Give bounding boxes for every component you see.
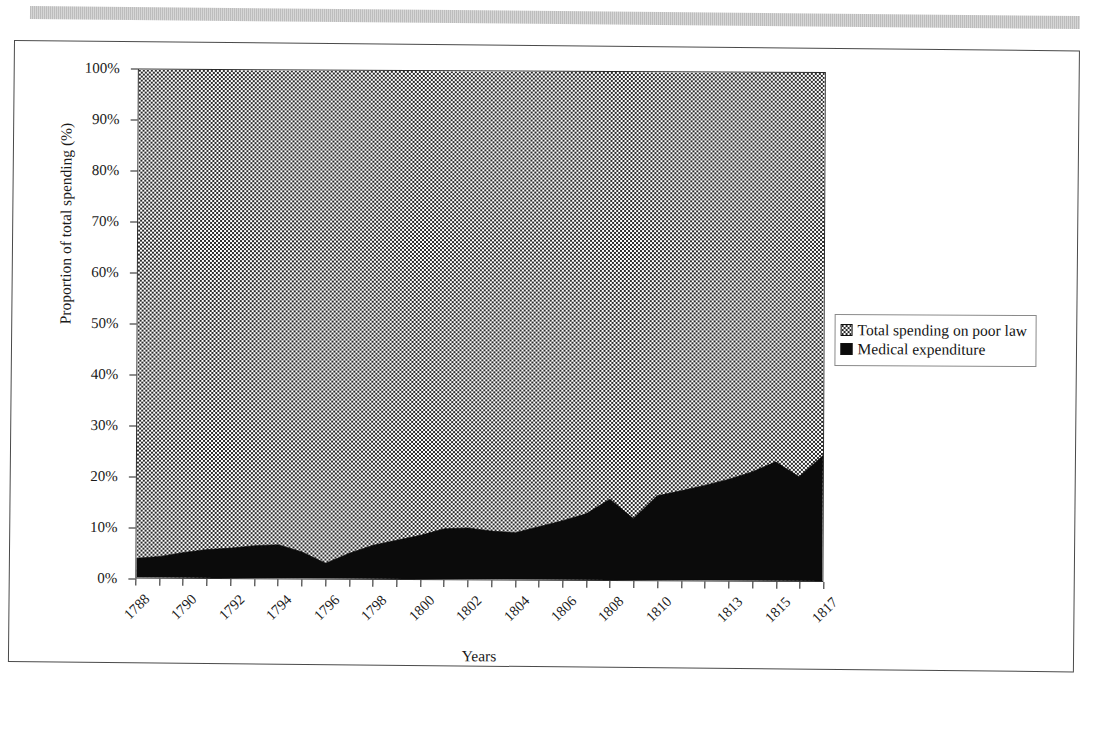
y-axis-tick (131, 120, 138, 121)
x-axis-tick (634, 581, 635, 588)
x-axis-tick (207, 579, 208, 586)
x-axis-tick (278, 579, 279, 586)
x-axis-tick (373, 580, 374, 587)
y-axis-tick (130, 324, 137, 325)
x-axis-tick (539, 581, 540, 588)
y-axis-tick-label: 10% (0, 518, 118, 536)
x-axis-tick (349, 580, 350, 587)
x-axis-tick (444, 580, 445, 587)
x-axis-tick (515, 580, 516, 587)
y-axis-tick-label: 60% (0, 263, 119, 281)
y-axis-tick (129, 528, 136, 529)
page-canvas: Proportion of total spending (%) 0%10%20… (0, 0, 1112, 731)
y-axis-tick-label: 40% (0, 365, 118, 383)
x-axis-tick (467, 580, 468, 587)
y-axis-tick (129, 426, 136, 427)
y-axis-tick-label: 30% (0, 416, 118, 434)
y-axis-tick (129, 477, 136, 478)
x-axis-tick (657, 581, 658, 588)
legend-swatch-solid-icon (840, 343, 852, 355)
legend-item-total-spending: Total spending on poor law (841, 321, 1027, 340)
x-axis-tick (728, 581, 729, 588)
plot-area (135, 69, 825, 582)
y-axis-tick (130, 273, 137, 274)
x-axis-tick (800, 582, 801, 589)
x-axis-tick (586, 581, 587, 588)
x-axis-tick (301, 579, 302, 586)
legend-label-total-spending: Total spending on poor law (858, 321, 1027, 340)
x-axis-tick (230, 579, 231, 586)
y-axis-tick-label: 90% (0, 110, 120, 128)
y-axis-ticks: 0%10%20%30%40%50%60%70%80%90%100% (0, 0, 1112, 5)
x-axis-tick (183, 579, 184, 586)
x-axis-tick (562, 581, 563, 588)
x-axis-tick (254, 579, 255, 586)
y-axis-tick-label: 50% (0, 314, 119, 332)
x-axis-tick (752, 582, 753, 589)
x-axis-tick (420, 580, 421, 587)
y-axis-tick-label: 20% (0, 467, 118, 485)
y-axis-tick (131, 69, 138, 70)
x-axis-tick (776, 582, 777, 589)
y-axis-tick (130, 171, 137, 172)
y-axis-tick-label: 100% (0, 59, 120, 77)
y-axis-tick-label: 0% (0, 569, 117, 587)
x-axis-tick (681, 581, 682, 588)
medical-expenditure-area (136, 452, 823, 581)
x-axis-tick (396, 580, 397, 587)
chart-legend: Total spending on poor law Medical expen… (834, 314, 1037, 367)
x-axis-ticks: 1788179017921794179617981800180218041806… (0, 0, 1112, 5)
area-chart-svg (136, 70, 824, 581)
legend-item-medical-expenditure: Medical expenditure (840, 340, 1026, 359)
x-axis-tick (491, 580, 492, 587)
legend-label-medical-expenditure: Medical expenditure (857, 340, 985, 358)
x-axis-tick (159, 579, 160, 586)
x-axis-tick (823, 582, 824, 589)
y-axis-tick (129, 375, 136, 376)
legend-swatch-stipple-icon (841, 324, 853, 336)
y-axis-tick-label: 80% (0, 161, 119, 179)
x-axis-tick (610, 581, 611, 588)
x-axis-tick (705, 581, 706, 588)
x-axis-tick (325, 580, 326, 587)
x-axis-title: Years (0, 645, 961, 668)
y-axis-tick (128, 579, 135, 580)
x-axis-tick (135, 579, 136, 586)
y-axis-tick-label: 70% (0, 212, 119, 230)
y-axis-tick (130, 222, 137, 223)
